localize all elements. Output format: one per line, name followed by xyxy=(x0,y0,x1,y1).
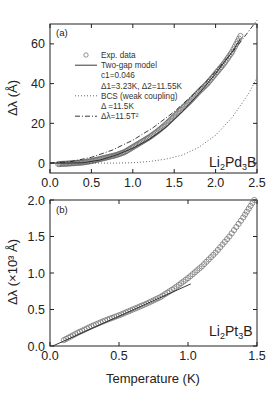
y-tick-label: 0.5 xyxy=(28,303,45,317)
x-tick-label: 0.5 xyxy=(110,349,127,363)
legend-circle-icon xyxy=(84,53,88,57)
panel-a-label: (a) xyxy=(56,27,68,38)
series-line xyxy=(53,284,191,346)
y-tick-label: 40 xyxy=(31,77,45,91)
panel-a-legend: Exp. dataTwo-gap modelc1=0.046Δ1=3.23K, … xyxy=(75,51,182,121)
x-tick-label: 2.0 xyxy=(207,176,224,190)
x-tick-label: 0.0 xyxy=(41,176,58,190)
x-tick-label: 0.5 xyxy=(83,176,100,190)
y-tick-label: 20 xyxy=(31,117,45,131)
panel-b-label: (b) xyxy=(56,204,68,215)
legend-label: Δλ=11.5T² xyxy=(101,112,139,121)
panel-b-xlabel: Temperature (K) xyxy=(106,371,200,386)
panel-a-compound: Li2Pd3B xyxy=(209,154,256,172)
y-tick-label: 1.0 xyxy=(28,267,45,281)
y-tick-label: 0 xyxy=(38,157,45,171)
legend-label: Δ =11.5K xyxy=(101,102,134,111)
legend-label: Δ1=3.23K, Δ2=11.55K xyxy=(101,82,182,91)
series-line xyxy=(50,39,240,163)
legend-label: Exp. data xyxy=(101,51,136,60)
legend-label: Two-gap model xyxy=(101,61,157,70)
x-tick-label: 1.5 xyxy=(166,176,183,190)
x-tick-label: 2.5 xyxy=(248,176,265,190)
y-tick-label: 60 xyxy=(31,37,45,51)
x-tick-label: 1.5 xyxy=(248,349,265,363)
legend-label: c1=0.046 xyxy=(101,71,135,80)
panel-a: 0.00.51.01.52.02.50204060 (a) Δλ (Å) Exp… xyxy=(5,20,266,190)
y-tick-label: 1.5 xyxy=(28,230,45,244)
legend-label: BCS (weak coupling) xyxy=(101,92,178,101)
x-tick-label: 1.0 xyxy=(124,176,141,190)
panel-b: 0.00.51.01.50.00.51.01.52.0 (b) Δλ (×10³… xyxy=(5,194,266,387)
panel-b-ylabel: Δλ (×10³ Å) xyxy=(5,239,20,305)
y-tick-label: 2.0 xyxy=(28,194,45,208)
panel-b-compound: Li2Pt3B xyxy=(209,323,253,341)
figure: 0.00.51.01.52.02.50204060 (a) Δλ (Å) Exp… xyxy=(0,0,279,397)
y-tick-label: 0.0 xyxy=(28,340,45,354)
x-tick-label: 1.0 xyxy=(179,349,196,363)
panel-a-ylabel: Δλ (Å) xyxy=(5,80,20,116)
